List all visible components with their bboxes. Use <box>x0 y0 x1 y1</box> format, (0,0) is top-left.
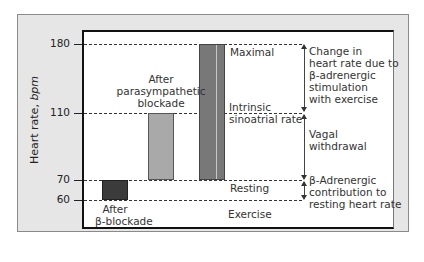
bar1-label: Afterβ-blockade <box>95 203 135 227</box>
arrowhead-up-icon <box>301 181 307 186</box>
y-axis-label-unit: bpm <box>28 76 41 101</box>
ytick-60: 60 <box>40 193 70 205</box>
ref-line-60 <box>84 200 302 201</box>
ytick-110: 110 <box>40 106 70 118</box>
ytick-180: 180 <box>40 37 70 49</box>
label-intrinsic: Intrinsicsinoatrial rate <box>229 101 302 125</box>
bar-after-parasympathetic-blockade <box>148 113 174 180</box>
arrowhead-down-icon <box>301 107 307 112</box>
ytick-70: 70 <box>40 173 70 185</box>
y-axis-label-main: Heart rate, <box>28 101 41 164</box>
arrow-exercise-range <box>304 46 305 111</box>
ytick-mark <box>74 113 82 114</box>
annotation-vagal: Vagalwithdrawal <box>309 128 367 152</box>
annotation-beta-resting: β-Adrenergiccontribution toresting heart… <box>309 174 401 210</box>
label-maximal: Maximal <box>230 46 274 58</box>
ytick-mark <box>74 200 82 201</box>
ytick-mark <box>74 180 82 181</box>
label-resting: Resting <box>230 182 269 194</box>
arrowhead-down-icon <box>301 175 307 180</box>
bar2-label: Afterparasympatheticblockade <box>116 73 206 109</box>
annotation-exercise: Change inheart rate due toβ-adrenergicst… <box>309 45 399 105</box>
arrowhead-down-icon <box>301 195 307 200</box>
bar-maximal-highlight <box>216 45 217 179</box>
label-exercise: Exercise <box>228 208 272 220</box>
bar-after-beta-blockade <box>102 180 128 200</box>
arrow-vagal-range <box>304 115 305 178</box>
bar-maximal <box>199 44 225 180</box>
arrowhead-up-icon <box>301 44 307 49</box>
arrowhead-up-icon <box>301 114 307 119</box>
ytick-mark <box>74 44 82 45</box>
ref-line-180 <box>84 44 302 45</box>
